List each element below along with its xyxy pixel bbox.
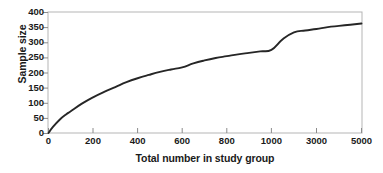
x-tick-label: 5000 xyxy=(342,136,382,146)
x-tick-label: 200 xyxy=(73,136,113,146)
x-tick-label: 600 xyxy=(162,136,202,146)
x-tick-label: 1000 xyxy=(251,136,291,146)
x-axis-tick-labels: 0200400600800100030005000 xyxy=(0,0,383,173)
chart-figure: 050100150200250300350400 020040060080010… xyxy=(0,0,383,173)
x-tick-label: 400 xyxy=(118,136,158,146)
x-tick-label: 3000 xyxy=(297,136,337,146)
x-axis-title: Total number in study group xyxy=(48,152,362,164)
y-axis-title: Sample size xyxy=(16,0,28,114)
x-tick-label: 0 xyxy=(29,136,69,146)
x-tick-label: 800 xyxy=(207,136,247,146)
